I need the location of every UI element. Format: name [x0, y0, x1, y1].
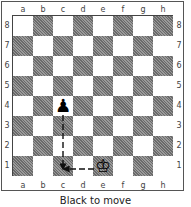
diagram-caption: Black to move: [0, 195, 191, 206]
black-pawn-c4: ♟: [53, 96, 73, 116]
white-king-e1: ♔: [93, 156, 113, 176]
